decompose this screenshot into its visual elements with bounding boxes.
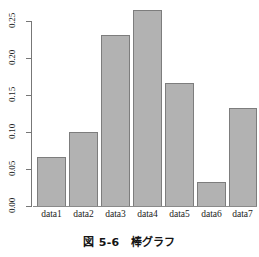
bar-data5	[165, 83, 194, 207]
figure-caption-title: 棒グラフ	[131, 236, 176, 249]
bar-data6	[197, 182, 226, 207]
y-tick-label-3: 0.15	[8, 83, 17, 107]
figure-caption: 図 5-6棒グラフ	[0, 236, 259, 250]
y-tick-mark-5	[26, 21, 31, 22]
y-axis-line	[31, 21, 32, 207]
bar-data4	[133, 10, 162, 207]
y-tick-label-4: 0.20	[8, 46, 17, 70]
y-tick-mark-2	[26, 132, 31, 133]
y-tick-label-5: 0.25	[8, 9, 17, 33]
y-tick-mark-1	[26, 169, 31, 170]
figure-caption-number: 図 5-6	[83, 236, 119, 249]
bar-data3	[101, 35, 130, 207]
x-tick-label-data7: data7	[220, 209, 259, 220]
bar-data2	[69, 132, 98, 207]
bar-data7	[229, 108, 257, 207]
y-tick-label-2: 0.10	[8, 120, 17, 144]
y-tick-label-0: 0.00	[8, 194, 17, 218]
y-tick-label-1: 0.05	[8, 157, 17, 181]
y-tick-mark-4	[26, 58, 31, 59]
plot-area: 0.00 0.05 0.10 0.15 0.20 0.25 data1 data…	[0, 0, 259, 212]
bar-chart-figure: 0.00 0.05 0.10 0.15 0.20 0.25 data1 data…	[0, 0, 259, 257]
bar-data1	[37, 157, 66, 207]
y-tick-mark-0	[26, 206, 31, 207]
y-tick-mark-3	[26, 95, 31, 96]
x-axis-line	[33, 206, 257, 207]
